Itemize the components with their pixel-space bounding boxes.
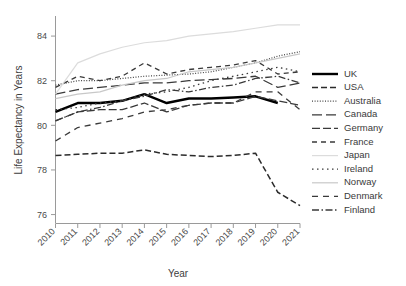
- y-tick-label: 84: [37, 31, 47, 41]
- legend-label-germany: Germany: [344, 122, 383, 133]
- y-tick-label: 82: [37, 76, 47, 86]
- legend-label-france: France: [344, 136, 374, 147]
- legend-label-canada: Canada: [344, 108, 378, 119]
- y-tick-label: 80: [37, 121, 47, 131]
- legend-label-australia: Australia: [344, 95, 382, 106]
- legend-label-denmark: Denmark: [344, 190, 383, 201]
- chart-container: 7678808284 20102011201220132014201520162…: [0, 0, 406, 286]
- line-chart: 7678808284 20102011201220132014201520162…: [0, 0, 406, 286]
- y-tick-label: 76: [37, 210, 47, 220]
- legend-label-ireland: Ireland: [344, 163, 373, 174]
- legend-label-norway: Norway: [344, 176, 376, 187]
- y-tick-label: 78: [37, 165, 47, 175]
- x-axis-title: Year: [168, 268, 189, 279]
- legend-label-usa: USA: [344, 81, 364, 92]
- y-axis-title: Life Expectancy in Years: [13, 66, 24, 175]
- legend-label-uk: UK: [344, 68, 358, 79]
- legend-label-finland: Finland: [344, 204, 375, 215]
- legend-label-japan: Japan: [344, 149, 370, 160]
